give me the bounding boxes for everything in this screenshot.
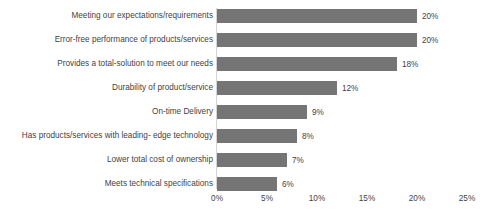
bar-track: 20% bbox=[217, 33, 486, 47]
bar-value-label: 6% bbox=[282, 179, 294, 190]
bar-value-label: 8% bbox=[302, 131, 314, 142]
bar-track: 7% bbox=[217, 153, 486, 167]
x-tick-label: 25% bbox=[447, 193, 486, 204]
bar bbox=[217, 81, 337, 95]
bar-row: Has products/services with leading- edge… bbox=[0, 128, 486, 152]
bar-chart: Meeting our expectations/requirements20%… bbox=[0, 0, 486, 222]
bar-value-label: 9% bbox=[312, 107, 324, 118]
x-tick-label: 10% bbox=[297, 193, 337, 204]
bar bbox=[217, 105, 307, 119]
category-label: Lower total cost of ownership bbox=[0, 154, 213, 165]
bar-row: Provides a total-solution to meet our ne… bbox=[0, 56, 486, 80]
x-tick-label: 0% bbox=[197, 193, 237, 204]
bar-track: 8% bbox=[217, 129, 486, 143]
bar-row: Error-free performance of products/servi… bbox=[0, 32, 486, 56]
bar-rows: Meeting our expectations/requirements20%… bbox=[0, 8, 486, 200]
bar bbox=[217, 153, 287, 167]
plot-area: Meeting our expectations/requirements20%… bbox=[0, 0, 486, 222]
category-label: Has products/services with leading- edge… bbox=[0, 130, 213, 141]
x-tick-label: 5% bbox=[247, 193, 287, 204]
bar-track: 18% bbox=[217, 57, 486, 71]
category-label: Error-free performance of products/servi… bbox=[0, 34, 213, 45]
bar-track: 20% bbox=[217, 9, 486, 23]
bar-track: 12% bbox=[217, 81, 486, 95]
bar bbox=[217, 33, 417, 47]
category-label: Durability of product/service bbox=[0, 82, 213, 93]
bar-row: Lower total cost of ownership7% bbox=[0, 152, 486, 176]
bar bbox=[217, 129, 297, 143]
bar-value-label: 20% bbox=[422, 11, 438, 22]
x-tick-label: 15% bbox=[347, 193, 387, 204]
bar-value-label: 12% bbox=[342, 83, 358, 94]
category-label: On-time Delivery bbox=[0, 106, 213, 117]
x-axis-tick-labels: 0%5%10%15%20%25% bbox=[0, 193, 486, 207]
x-tick-label: 20% bbox=[397, 193, 437, 204]
bar-row: On-time Delivery9% bbox=[0, 104, 486, 128]
bar-value-label: 7% bbox=[292, 155, 304, 166]
bar-track: 9% bbox=[217, 105, 486, 119]
bar bbox=[217, 57, 397, 71]
bar-value-label: 20% bbox=[422, 35, 438, 46]
category-label: Meeting our expectations/requirements bbox=[0, 10, 213, 21]
bar-row: Meeting our expectations/requirements20% bbox=[0, 8, 486, 32]
bar bbox=[217, 9, 417, 23]
category-label: Meets technical specifications bbox=[0, 178, 213, 189]
bar bbox=[217, 177, 277, 191]
bar-value-label: 18% bbox=[402, 59, 418, 70]
category-label: Provides a total-solution to meet our ne… bbox=[0, 58, 213, 69]
bar-row: Durability of product/service12% bbox=[0, 80, 486, 104]
bar-track: 6% bbox=[217, 177, 486, 191]
